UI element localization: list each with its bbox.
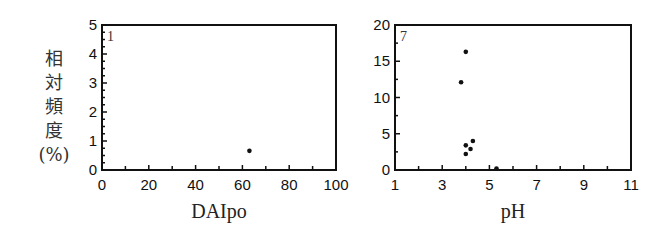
charts: 0204060801000123451DAIpo1357911051015207…: [0, 0, 648, 234]
x-tick-label: 20: [140, 176, 157, 193]
y-tick-label: 10: [373, 89, 390, 106]
x-tick-label: 1: [391, 176, 399, 193]
y-tick-label: 4: [89, 45, 97, 62]
y-tick-label: 2: [89, 103, 97, 120]
dai-po-plot: 0204060801000123451DAIpo: [89, 16, 349, 223]
panel-label: 7: [400, 29, 407, 44]
x-tick-label: 60: [234, 176, 251, 193]
data-point: [468, 147, 473, 152]
y-tick-label: 5: [382, 125, 390, 142]
data-point: [471, 139, 476, 144]
y-tick-label: 0: [382, 161, 390, 178]
x-tick-label: 80: [281, 176, 298, 193]
x-tick-label: 5: [485, 176, 493, 193]
data-point: [464, 50, 469, 55]
data-point: [459, 80, 464, 85]
x-tick-label: 3: [438, 176, 446, 193]
panel-label: 1: [107, 29, 114, 44]
y-tick-label: 20: [373, 16, 390, 33]
plot-frame: [102, 25, 336, 170]
y-tick-label: 15: [373, 52, 390, 69]
data-point: [247, 149, 252, 154]
y-tick-label: 1: [89, 132, 97, 149]
x-tick-label: 40: [187, 176, 204, 193]
data-point: [494, 166, 499, 171]
y-tick-label: 3: [89, 74, 97, 91]
data-point: [464, 143, 469, 148]
data-point: [464, 152, 469, 157]
x-tick-label: 11: [623, 176, 639, 193]
plot-frame: [395, 25, 631, 170]
x-axis-label: DAIpo: [191, 200, 247, 223]
x-tick-label: 9: [580, 176, 588, 193]
x-tick-label: 0: [98, 176, 106, 193]
x-tick-label: 7: [532, 176, 540, 193]
y-tick-label: 5: [89, 16, 97, 33]
x-axis-label: pH: [501, 200, 525, 223]
ph-plot: 1357911051015207pH: [373, 16, 638, 223]
y-tick-label: 0: [89, 161, 97, 178]
x-tick-label: 100: [323, 176, 348, 193]
